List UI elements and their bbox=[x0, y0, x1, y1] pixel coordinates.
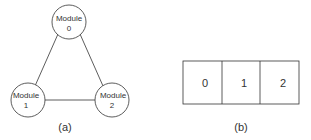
node-label: Module bbox=[56, 14, 83, 23]
diagram-canvas: Module 0 Module 1 Module 2 (a) 0 1 2 (b) bbox=[0, 0, 311, 140]
caption-b: (b) bbox=[234, 121, 247, 133]
node-index: 2 bbox=[110, 101, 115, 110]
node-label: Module bbox=[100, 91, 127, 100]
node-module-1: Module 1 bbox=[11, 83, 45, 117]
cell-0: 0 bbox=[202, 77, 208, 89]
node-module-0: Module 0 bbox=[52, 5, 86, 39]
node-module-2: Module 2 bbox=[95, 83, 129, 117]
node-label: Module bbox=[13, 91, 40, 100]
node-index: 1 bbox=[24, 101, 29, 110]
node-index: 0 bbox=[67, 24, 72, 33]
cell-1: 1 bbox=[241, 77, 247, 89]
cell-2: 2 bbox=[280, 77, 286, 89]
edge-0-1 bbox=[35, 34, 58, 86]
figure-b: 0 1 2 (b) bbox=[183, 61, 299, 133]
figure-a: Module 0 Module 1 Module 2 (a) bbox=[11, 5, 129, 133]
caption-a: (a) bbox=[58, 121, 71, 133]
edge-0-2 bbox=[80, 34, 103, 86]
